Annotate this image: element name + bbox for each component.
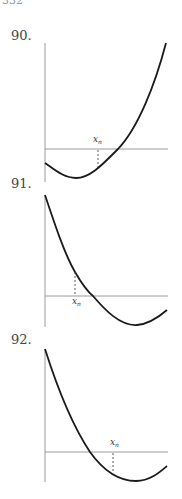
figures: xn xn xn: [0, 0, 182, 499]
function-curve: [45, 349, 167, 481]
function-curve: [45, 195, 167, 325]
xn-label: xn: [72, 296, 81, 307]
graph-91: xn: [45, 195, 168, 327]
graph-92: xn: [45, 349, 168, 482]
function-curve: [45, 43, 166, 178]
xn-label: xn: [93, 134, 102, 145]
graph-90: xn: [45, 43, 168, 182]
xn-label: xn: [110, 437, 119, 448]
